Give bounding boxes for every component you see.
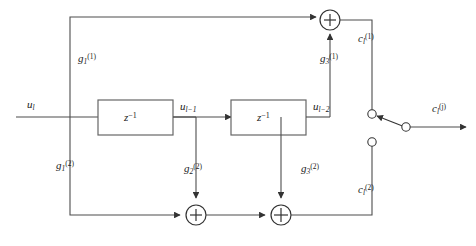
label-input-signal: ul <box>27 99 35 111</box>
switch-contact-upper <box>368 110 376 118</box>
label-output-signal: cl(j) <box>432 103 446 116</box>
switch-blade <box>377 116 405 127</box>
label-gain-g3-2: g3(2) <box>301 163 319 176</box>
label-gain-g1-1: g1(1) <box>78 53 96 66</box>
delay-block-1-label: z−1 <box>124 111 137 123</box>
delay-block-2-label: z−1 <box>257 111 270 123</box>
label-gain-g1-2: g1(2) <box>56 160 74 173</box>
diagram-svg <box>0 0 476 246</box>
wire-c2-to-switch <box>291 146 372 215</box>
switch-contact-lower <box>368 138 376 146</box>
diagram-canvas: ul z−1 z−1 ul−1 ul−2 g1(1) g3(1) g1(2) g… <box>0 0 476 246</box>
label-gain-g2-2: g2(2) <box>184 163 202 176</box>
label-tap1-signal: ul−1 <box>180 101 196 113</box>
label-tap2-signal: ul−2 <box>313 101 329 113</box>
label-gain-g3-1: g3(1) <box>320 53 338 66</box>
label-branch2-signal: cl(2) <box>358 184 374 197</box>
label-branch1-signal: cl(1) <box>358 33 374 46</box>
switch-pivot <box>402 123 410 131</box>
